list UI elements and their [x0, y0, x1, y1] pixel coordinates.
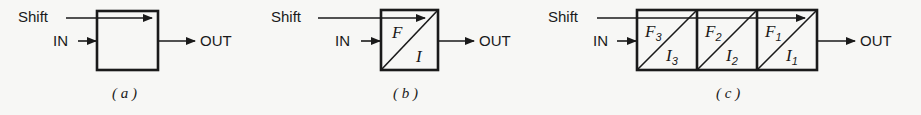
register-cell-2: F2 I2	[697, 10, 757, 70]
flipflop-label: F	[391, 23, 403, 42]
flipflop-label: F3	[644, 22, 662, 43]
caption-c: ( c )	[716, 85, 740, 102]
shift-label: Shift	[548, 8, 579, 25]
in-label: IN	[593, 32, 608, 49]
register-cell-1: F1 I1	[757, 10, 817, 70]
panel-c: Shift IN F3 I3 F2 I2 F1 I1 OUT ( c )	[548, 8, 892, 102]
input-label: I2	[725, 46, 738, 67]
input-label: I1	[785, 46, 798, 67]
register-cell-3: F3 I3	[637, 10, 697, 70]
out-label: OUT	[860, 32, 892, 49]
in-label: IN	[335, 32, 350, 49]
caption-a: ( a )	[112, 85, 137, 102]
panel-a: Shift IN OUT ( a )	[18, 8, 232, 102]
panel-b: Shift IN F I OUT ( b )	[271, 8, 511, 102]
shift-label: Shift	[18, 8, 49, 25]
out-label: OUT	[479, 32, 511, 49]
flipflop-label: F2	[704, 22, 722, 43]
input-label: I3	[665, 46, 679, 67]
shift-label: Shift	[271, 8, 302, 25]
in-label: IN	[53, 32, 68, 49]
cell-diagonal	[381, 10, 438, 70]
flipflop-label: F1	[764, 22, 782, 43]
caption-b: ( b )	[393, 85, 418, 102]
register-box	[97, 11, 158, 70]
shift-register-diagram: Shift IN OUT ( a ) Shift IN F I OUT ( b …	[0, 0, 921, 115]
input-label: I	[415, 47, 423, 66]
out-label: OUT	[200, 32, 232, 49]
